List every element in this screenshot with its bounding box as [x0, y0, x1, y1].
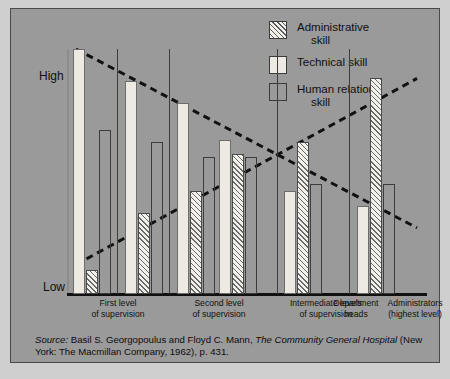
group-divider [349, 49, 350, 294]
x-axis-label-line1: Second level [167, 298, 271, 309]
x-axis-label-group-4: Administrators(highest level) [363, 298, 450, 319]
legend-label-administrative-line2: skill [297, 34, 369, 47]
x-axis-label-group-1: Second levelof supervision [167, 298, 271, 319]
bar-human-relations [383, 184, 395, 294]
source-citation: Source: Basil S. Georgopoulus and Floyd … [35, 334, 437, 359]
chart-figure: Administrative skill Technical skill Hum… [0, 0, 450, 379]
bar-human-relations [310, 184, 322, 294]
bar-human-relations [151, 142, 163, 294]
bar-technical [125, 81, 137, 294]
bar-human-relations [203, 157, 215, 294]
source-title-a: The Community General [255, 334, 360, 345]
x-axis-label-line1: First level [69, 298, 167, 309]
chart-panel: Administrative skill Technical skill Hum… [10, 8, 440, 363]
source-title-b: Hospital [362, 334, 397, 345]
bar-human-relations [245, 157, 257, 294]
bar-administrative [370, 78, 382, 294]
y-axis-high-label: High [39, 69, 64, 83]
x-axis-label-line2: of supervision [167, 309, 271, 320]
group-divider [277, 49, 278, 294]
source-prefix: Source: [35, 334, 68, 345]
x-axis-label-line1: Administrators [363, 298, 450, 309]
bar-administrative [86, 270, 98, 295]
legend-label-administrative: Administrative skill [297, 21, 369, 47]
source-text-a: Basil S. Georgopoulus and Floyd C. Mann, [68, 334, 255, 345]
y-axis-low-label: Low [43, 280, 65, 294]
bar-human-relations [99, 130, 111, 294]
legend-label-administrative-line1: Administrative [297, 21, 369, 33]
bar-technical [219, 140, 231, 294]
bar-technical [73, 49, 85, 294]
x-axis-label-line2: (highest level) [363, 309, 450, 320]
bar-technical [357, 206, 369, 294]
bar-administrative [190, 191, 202, 294]
hatched-swatch-icon [269, 21, 287, 39]
bar-administrative [297, 142, 309, 294]
x-axis-label-line2: of supervision [69, 309, 167, 320]
bar-administrative [138, 213, 150, 294]
bar-administrative [232, 154, 244, 294]
group-divider [117, 49, 118, 294]
group-divider [169, 49, 170, 294]
legend-item-administrative: Administrative skill [269, 21, 439, 47]
bar-technical [177, 103, 189, 294]
plot-area [69, 49, 424, 294]
x-axis-labels: First levelof supervisionSecond levelof … [67, 298, 427, 328]
bar-technical [284, 191, 296, 294]
x-axis-label-group-0: First levelof supervision [69, 298, 167, 319]
